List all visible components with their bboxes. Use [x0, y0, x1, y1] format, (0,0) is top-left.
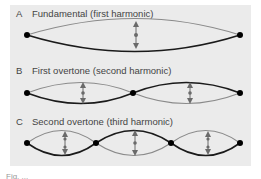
- node-dot-icon: [130, 90, 136, 96]
- node-dot-icon: [24, 140, 30, 146]
- standing-waves-diagram: [0, 0, 261, 179]
- node-dot-icon: [237, 32, 243, 38]
- amplitude-arrow-icon: [188, 85, 192, 101]
- wave-a-fundamental: [24, 19, 243, 52]
- node-dot-icon: [93, 140, 99, 146]
- amplitude-arrow-icon: [133, 133, 137, 153]
- node-dot-icon: [24, 32, 30, 38]
- node-dot-icon: [237, 90, 243, 96]
- node-dot-icon: [24, 90, 30, 96]
- amplitude-arrow-icon: [81, 85, 85, 101]
- node-dot-icon: [168, 140, 174, 146]
- wave-c-third-harmonic: [24, 131, 243, 156]
- wave-b-second-harmonic: [24, 83, 243, 104]
- node-dot-icon: [237, 140, 243, 146]
- amplitude-arrow-icon: [63, 134, 66, 152]
- amplitude-arrow-icon: [206, 134, 209, 152]
- figure-caption-fragment: Fig. ...: [6, 172, 28, 179]
- amplitude-arrow-icon: [134, 24, 138, 46]
